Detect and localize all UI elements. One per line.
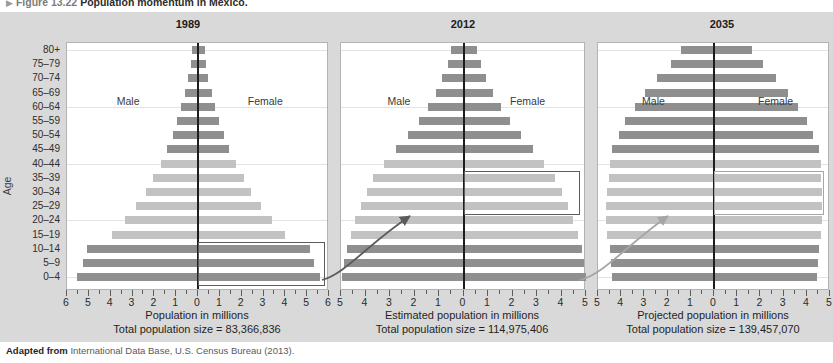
- x-minor-tick: [352, 290, 353, 294]
- bar-male: [671, 60, 714, 68]
- bar-male: [448, 60, 464, 68]
- figure-number: Figure 13.22: [16, 0, 77, 8]
- x-minor-tick: [426, 290, 427, 294]
- bar-female: [714, 131, 813, 139]
- x-tick-label: 5: [821, 296, 833, 308]
- bar-male: [181, 103, 198, 111]
- bar-male: [161, 160, 198, 168]
- source-prefix: Adapted from: [6, 345, 68, 356]
- bar-female: [464, 131, 521, 139]
- center-axis-line: [463, 43, 465, 289]
- bar-female: [714, 259, 818, 267]
- bar-female: [464, 103, 501, 111]
- x-tick-label: 6: [58, 296, 74, 308]
- x-minor-tick: [230, 290, 231, 294]
- x-tick-label: 2: [504, 296, 520, 308]
- x-minor-tick: [794, 290, 795, 294]
- bar-female: [198, 74, 208, 82]
- x-minor-tick: [317, 290, 318, 294]
- figure-title-text: Population momentum in Mexico.: [80, 0, 247, 8]
- x-minor-tick: [164, 290, 165, 294]
- figure-body: 1989 2012 2035 Age 80+75–7970–7465–6960–…: [0, 12, 833, 342]
- x-minor-tick: [701, 290, 702, 294]
- panel-year-2035: 2035: [662, 18, 782, 30]
- x-minor-tick: [273, 290, 274, 294]
- bar-female: [464, 245, 582, 253]
- age-group-label: 20–24: [14, 215, 60, 225]
- x-minor-tick: [609, 290, 610, 294]
- source-text: International Data Base, U.S. Census Bur…: [70, 345, 294, 356]
- bar-female: [198, 216, 272, 224]
- x-minor-tick: [771, 290, 772, 294]
- bar-female: [464, 89, 493, 97]
- source-caption: Adapted from International Data Base, U.…: [6, 345, 294, 356]
- age-group-label: 75–79: [14, 59, 60, 69]
- bar-female: [464, 46, 478, 54]
- x-minor-tick: [295, 290, 296, 294]
- legend-label-male: Male: [388, 95, 411, 107]
- bar-male: [625, 117, 714, 125]
- x-tick-label: 0: [705, 296, 721, 308]
- highlight-box: [714, 171, 824, 216]
- x-tick-label: 4: [612, 296, 628, 308]
- x-axis-label-1989: Population in millions: [47, 308, 347, 322]
- highlight-box: [464, 171, 581, 216]
- bar-female: [198, 202, 261, 210]
- x-tick-label: 1: [211, 296, 227, 308]
- bar-male: [87, 245, 198, 253]
- bar-female: [464, 145, 533, 153]
- x-minor-tick: [632, 290, 633, 294]
- x-minor-tick: [186, 290, 187, 294]
- x-tick-label: 5: [589, 296, 605, 308]
- bar-female: [714, 273, 817, 281]
- x-minor-tick: [678, 290, 679, 294]
- x-ticks-2035: 54321012345: [597, 290, 829, 296]
- figure-title: ▶ Figure 13.22 Population momentum in Me…: [6, 0, 248, 8]
- bar-male: [611, 259, 714, 267]
- x-tick-label: 4: [357, 296, 373, 308]
- x-minor-tick: [748, 290, 749, 294]
- bar-male: [361, 202, 463, 210]
- bar-female: [464, 74, 487, 82]
- x-tick-label: 4: [553, 296, 569, 308]
- bar-male: [606, 202, 714, 210]
- bar-male: [367, 188, 464, 196]
- x-tick-label: 5: [298, 296, 314, 308]
- age-group-label: 55–59: [14, 116, 60, 126]
- figure-title-marker: ▶: [6, 0, 13, 8]
- x-axis-label-2035: Projected population in millions: [563, 308, 833, 322]
- total-population-1989: Total population size = 83,366,836: [47, 322, 347, 336]
- x-tick-label: 0: [189, 296, 205, 308]
- x-minor-tick: [475, 290, 476, 294]
- legend-label-male: Male: [642, 95, 665, 107]
- bar-male: [607, 231, 714, 239]
- bar-male: [657, 74, 714, 82]
- x-tick-label: 5: [80, 296, 96, 308]
- bar-male: [167, 145, 198, 153]
- age-group-label: 65–69: [14, 88, 60, 98]
- x-tick-label: 1: [167, 296, 183, 308]
- bar-female: [714, 231, 821, 239]
- bar-female: [198, 131, 224, 139]
- bar-female: [198, 160, 236, 168]
- x-minor-tick: [252, 290, 253, 294]
- bar-female: [198, 188, 251, 196]
- bar-female: [198, 117, 219, 125]
- age-group-label: 40–44: [14, 159, 60, 169]
- x-tick-label: 3: [124, 296, 140, 308]
- bar-male: [610, 245, 714, 253]
- bar-female: [714, 245, 819, 253]
- x-tick-label: 2: [751, 296, 767, 308]
- panel-year-1989: 1989: [128, 18, 248, 30]
- age-group-label: 35–39: [14, 173, 60, 183]
- legend-label-female: Female: [510, 95, 545, 107]
- x-tick-label: 2: [406, 296, 422, 308]
- bar-male: [612, 273, 714, 281]
- x-minor-tick: [548, 290, 549, 294]
- x-tick-label: 1: [682, 296, 698, 308]
- bar-male: [610, 160, 714, 168]
- total-population-2035: Total population size = 139,457,070: [563, 322, 833, 336]
- age-group-label: 70–74: [14, 73, 60, 83]
- pyramid-panel-2035: MaleFemale: [597, 42, 829, 290]
- bar-female: [714, 74, 776, 82]
